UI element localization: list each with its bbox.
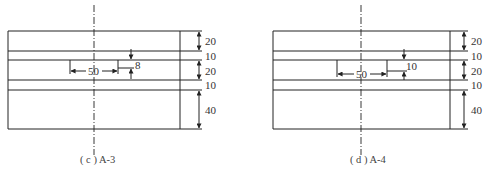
inner-width-label: 50 (88, 65, 100, 77)
caption: ( d ) A-4 (350, 154, 387, 166)
caption: ( c ) A-3 (80, 154, 115, 166)
layer-label: 40 (205, 104, 217, 116)
layer-label: 10 (471, 50, 483, 62)
diagram-a3 (8, 5, 202, 155)
diagram-a3-labels: 20 10 20 10 40 50 8 ( c ) A-3 (80, 35, 217, 166)
inner-depth-label: 10 (406, 60, 418, 72)
inner-depth-label: 8 (135, 59, 141, 71)
layer-label: 10 (471, 79, 483, 91)
diagram-canvas: 20 10 20 10 40 50 8 ( c ) A-3 20 10 20 1… (0, 0, 485, 177)
layer-label: 20 (471, 65, 483, 77)
inner-width-label: 50 (356, 68, 368, 80)
layer-label: 20 (205, 35, 217, 47)
layer-label: 20 (205, 65, 217, 77)
layer-label: 10 (205, 50, 217, 62)
layer-label: 10 (205, 79, 217, 91)
diagram-a4 (273, 5, 468, 155)
layer-label: 20 (471, 35, 483, 47)
layer-label: 40 (471, 104, 483, 116)
diagram-a4-labels: 20 10 20 10 40 50 10 ( d ) A-4 (350, 35, 483, 166)
